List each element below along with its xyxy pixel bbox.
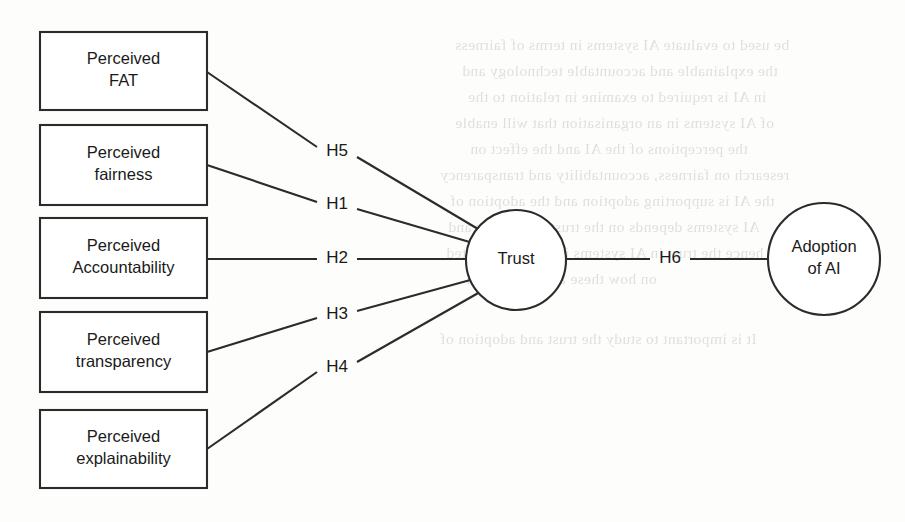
latent-circle-trust: Trust [466, 210, 566, 310]
circle-label-line1: Trust [498, 249, 535, 267]
hypothesis-label-h3: H3 [326, 304, 348, 323]
hypothesis-label-h5: H5 [326, 141, 348, 160]
construct-boxes-group: PerceivedFATPerceivedfairnessPerceivedAc… [40, 32, 207, 488]
latent-circle-adoption: Adoptionof AI [768, 203, 880, 315]
connector-line-e-h4-a [207, 372, 317, 449]
box-label-line2: fairness [95, 165, 153, 183]
box-label-line2: transparency [76, 352, 172, 370]
box-label-line1: Perceived [87, 427, 160, 445]
box-label-line1: Perceived [87, 49, 160, 67]
construct-box-explainability: Perceivedexplainability [40, 410, 207, 488]
circle-label-line2: of AI [807, 259, 840, 277]
construct-box-accountability: PerceivedAccountability [40, 218, 207, 298]
box-label-line2: Accountability [73, 258, 176, 276]
construct-box-fairness: Perceivedfairness [40, 125, 207, 205]
hypothesis-label-h6: H6 [659, 248, 681, 267]
box-label-line1: Perceived [87, 143, 160, 161]
hypothesis-label-h1: H1 [326, 194, 348, 213]
figure-page: be used to evaluate AI systems in terms … [0, 0, 905, 522]
box-label-line1: Perceived [87, 236, 160, 254]
connector-line-e-h4-b [357, 292, 480, 362]
construct-box-transparency: Perceivedtransparency [40, 312, 207, 392]
connector-line-e-h3-a [207, 318, 317, 352]
circle-label-line1: Adoption [791, 237, 856, 255]
box-label-line1: Perceived [87, 330, 160, 348]
connector-line-e-h5-b [357, 157, 478, 229]
connector-line-e-h5-a [207, 72, 317, 147]
connector-line-e-h1-b [357, 209, 473, 243]
hypothesis-label-h2: H2 [326, 248, 348, 267]
box-label-line2: FAT [109, 71, 138, 89]
construct-box-fat: PerceivedFAT [40, 32, 207, 110]
box-label-line2: explainability [76, 449, 171, 467]
research-model-diagram: PerceivedFATPerceivedfairnessPerceivedAc… [0, 0, 905, 522]
connector-line-e-h1-a [207, 165, 317, 202]
hypothesis-label-h4: H4 [326, 357, 348, 376]
